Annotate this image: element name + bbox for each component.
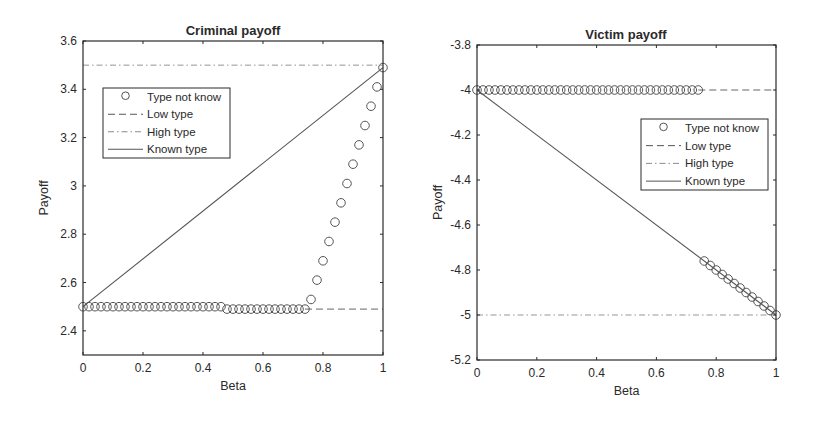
y-tick-label: -4.2 [450,128,471,142]
data-point-marker [307,295,316,304]
data-point-marker [373,83,382,92]
x-axis-label: Beta [614,384,640,398]
y-tick-label: 2.6 [60,276,77,290]
y-tick-label: -4.8 [450,263,471,277]
legend-label: Known type [147,143,207,155]
data-point-marker [361,121,370,130]
x-tick-label: 0 [474,366,481,380]
legend-label: High type [685,157,734,169]
x-tick-label: 0.2 [528,366,545,380]
x-tick-label: 1 [773,366,780,380]
y-tick-label: -5 [460,308,471,322]
x-tick-label: 1 [380,361,387,375]
legend-label: Known type [685,175,745,187]
data-point-marker [325,237,334,246]
y-tick-label: 2.8 [60,227,77,241]
y-tick-label: 3 [70,179,77,193]
y-axis-label: Payoff [37,180,51,216]
victim-payoff-plot: Victim payoff00.20.40.60.81-5.2-5-4.8-4.… [431,27,780,398]
y-tick-label: -3.8 [450,38,471,52]
x-tick-label: 0.4 [588,366,605,380]
figure: Criminal payoff00.20.40.60.812.42.62.833… [0,0,813,422]
data-point-marker [337,199,346,208]
data-point-marker [355,141,364,150]
legend-label: Type not know [147,91,222,103]
x-tick-label: 0.4 [195,361,212,375]
legend-label: Type not know [685,122,760,134]
data-point-marker [319,257,328,266]
y-tick-label: -5.2 [450,353,471,367]
legend-label: High type [147,126,196,138]
criminal-payoff-plot: Criminal payoff00.20.40.60.812.42.62.833… [37,23,387,393]
x-tick-label: 0 [80,361,87,375]
y-axis-label: Payoff [431,184,445,220]
legend: Type not knowLow typeHigh typeKnown type [641,119,768,190]
legend: Type not knowLow typeHigh typeKnown type [103,88,230,158]
x-tick-label: 0.6 [648,366,665,380]
y-tick-label: -4 [460,83,471,97]
x-axis-label: Beta [220,379,246,393]
legend-label: Low type [147,108,193,120]
data-point-marker [349,160,358,169]
data-point-marker [343,179,352,188]
y-tick-label: 2.4 [60,324,77,338]
data-point-marker [313,276,322,285]
y-tick-label: -4.6 [450,218,471,232]
x-tick-label: 0.8 [708,366,725,380]
payoff-charts: Criminal payoff00.20.40.60.812.42.62.833… [0,0,813,422]
y-tick-label: 3.2 [60,131,77,145]
x-tick-label: 0.2 [135,361,152,375]
x-tick-label: 0.6 [255,361,272,375]
chart-title: Victim payoff [585,27,667,42]
data-point-marker [367,102,376,111]
chart-title: Criminal payoff [186,23,281,38]
legend-label: Low type [685,140,731,152]
x-tick-label: 0.8 [315,361,332,375]
data-point-marker [331,218,340,227]
y-tick-label: 3.4 [60,82,77,96]
y-tick-label: 3.6 [60,34,77,48]
y-tick-label: -4.4 [450,173,471,187]
